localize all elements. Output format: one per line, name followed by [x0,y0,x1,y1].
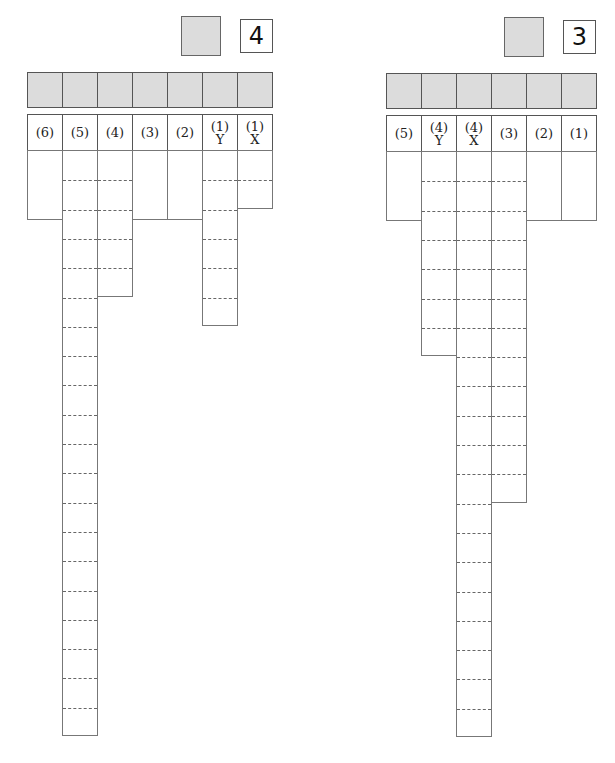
row-divider [203,239,237,240]
right-column-header-2: (4)X [456,115,492,152]
row-divider [63,561,97,562]
left-column-header-6: (1)X [237,114,273,151]
left-answer-cell-6[interactable] [237,72,273,108]
header-label-bottom: Y [435,134,444,147]
right-column-header-5: (1) [561,115,597,152]
left-column-4[interactable] [167,150,203,220]
right-answer-cell-3[interactable] [491,73,527,109]
left-column-header-0: (6) [27,114,63,151]
header-label-top: (1) [211,120,229,133]
right-gray-square[interactable] [504,17,544,57]
right-column-5[interactable] [561,151,597,221]
row-divider [203,298,237,299]
row-divider [203,180,237,181]
row-divider [492,445,526,446]
row-divider [63,503,97,504]
row-divider [457,328,491,329]
row-divider [63,298,97,299]
row-divider [422,299,456,300]
header-label-top: (6) [36,126,54,139]
row-divider [457,533,491,534]
row-divider [63,708,97,709]
row-divider [63,678,97,679]
right-answer-cell-2[interactable] [456,73,492,109]
right-column-1[interactable] [421,151,457,356]
left-column-0[interactable] [27,150,63,220]
left-number-box: 4 [240,19,273,53]
row-divider [63,473,97,474]
row-divider [457,562,491,563]
row-divider [63,268,97,269]
row-divider [63,356,97,357]
header-label-top: (4) [430,121,448,134]
left-column-1[interactable] [62,150,98,736]
row-divider [492,299,526,300]
row-divider [457,299,491,300]
row-divider [457,240,491,241]
header-label-top: (3) [141,126,159,139]
row-divider [63,180,97,181]
header-label-top: (5) [395,127,413,140]
header-label-bottom: X [469,134,478,147]
row-divider [422,211,456,212]
left-column-header-5: (1)Y [202,114,238,151]
row-divider [457,181,491,182]
row-divider [492,181,526,182]
left-answer-cell-2[interactable] [97,72,133,108]
row-divider [492,211,526,212]
header-label-top: (3) [500,127,518,140]
row-divider [63,591,97,592]
right-column-0[interactable] [386,151,422,221]
row-divider [63,327,97,328]
right-answer-cell-4[interactable] [526,73,562,109]
left-answer-cell-1[interactable] [62,72,98,108]
row-divider [492,357,526,358]
row-divider [98,268,132,269]
row-divider [457,445,491,446]
right-column-3[interactable] [491,151,527,503]
row-divider [457,386,491,387]
right-column-header-4: (2) [526,115,562,152]
left-column-5[interactable] [202,150,238,326]
right-column-header-0: (5) [386,115,422,152]
left-column-6[interactable] [237,150,273,209]
row-divider [457,474,491,475]
row-divider [63,239,97,240]
row-divider [457,679,491,680]
right-answer-cell-1[interactable] [421,73,457,109]
left-column-header-1: (5) [62,114,98,151]
row-divider [457,357,491,358]
right-column-header-1: (4)Y [421,115,457,152]
row-divider [203,268,237,269]
left-answer-cell-4[interactable] [167,72,203,108]
row-divider [63,620,97,621]
right-answer-cell-0[interactable] [386,73,422,109]
left-answer-cell-5[interactable] [202,72,238,108]
header-label-top: (4) [106,126,124,139]
row-divider [422,181,456,182]
row-divider [457,709,491,710]
right-column-header-3: (3) [491,115,527,152]
row-divider [422,240,456,241]
right-answer-cell-5[interactable] [561,73,597,109]
header-label-top: (2) [176,126,194,139]
row-divider [63,444,97,445]
row-divider [98,210,132,211]
panel-number: 4 [249,22,264,50]
right-column-4[interactable] [526,151,562,221]
left-answer-cell-0[interactable] [27,72,63,108]
right-column-2[interactable] [456,151,492,737]
row-divider [63,649,97,650]
left-answer-cell-3[interactable] [132,72,168,108]
row-divider [238,180,272,181]
right-number-box: 3 [563,20,596,54]
row-divider [457,592,491,593]
left-gray-square[interactable] [181,16,221,56]
row-divider [492,269,526,270]
left-column-2[interactable] [97,150,133,297]
header-label-bottom: X [250,133,259,146]
row-divider [492,328,526,329]
left-column-3[interactable] [132,150,168,220]
row-divider [457,650,491,651]
header-label-top: (4) [465,121,483,134]
